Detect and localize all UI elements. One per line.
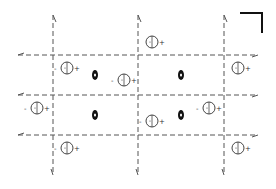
origin-corner-mark [240, 13, 262, 33]
atom-position: -+ [54, 62, 80, 74]
sign-label-left: - [139, 118, 142, 126]
sign-label-left: - [111, 77, 114, 85]
two-fold-screw-axis-icon [92, 70, 98, 80]
sign-label-right: + [245, 145, 251, 153]
comma-dot-icon [121, 79, 122, 80]
sign-label-right: + [44, 105, 50, 113]
comma-dot-icon [149, 120, 150, 121]
sign-label-left: - [196, 105, 199, 113]
sign-label-right: + [131, 77, 137, 85]
comma-dot-icon [64, 147, 65, 148]
symmetry-diagram: -+-+++-+-+-+-++ [0, 0, 276, 189]
atom-position: -+ [139, 115, 165, 127]
comma-dot-icon [235, 67, 236, 68]
two-fold-screw-axis-icon [92, 110, 98, 120]
sign-label-right: + [74, 65, 80, 73]
sign-label-right: + [74, 145, 80, 153]
two-fold-screw-axis-icon [178, 110, 184, 120]
atom-position: -+ [111, 74, 137, 86]
comma-dot-icon [149, 41, 150, 42]
comma-dot-icon [206, 107, 207, 108]
comma-dot-icon [235, 147, 236, 148]
sign-label-right: + [245, 65, 251, 73]
atom-position: -+ [54, 142, 80, 154]
atom-position: + [232, 142, 251, 154]
atom-position: + [146, 36, 165, 48]
atom-position: -+ [196, 102, 222, 114]
sign-label-right: + [159, 39, 165, 47]
sign-label-left: - [54, 65, 57, 73]
sign-label-right: + [216, 105, 222, 113]
atom-position: + [232, 62, 251, 74]
sign-label-left: - [54, 145, 57, 153]
sign-label-left: - [24, 105, 27, 113]
comma-dot-icon [64, 67, 65, 68]
sign-label-right: + [159, 118, 165, 126]
unit-cell-corner-icon [240, 13, 262, 33]
comma-dot-icon [34, 107, 35, 108]
atom-position: -+ [24, 102, 50, 114]
two-fold-screw-axis-icon [178, 70, 184, 80]
